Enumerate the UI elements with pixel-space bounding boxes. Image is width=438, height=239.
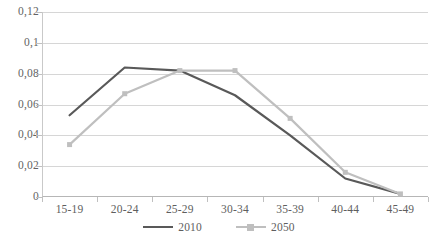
data-point-marker xyxy=(67,142,72,147)
data-point-marker xyxy=(288,116,293,121)
series-layer xyxy=(0,0,438,239)
series-line-2050 xyxy=(70,71,401,194)
data-point-marker xyxy=(233,68,238,73)
legend-swatch-icon xyxy=(236,223,266,232)
legend-label: 2050 xyxy=(271,221,295,233)
legend-item-2050[interactable]: 2050 xyxy=(236,221,295,233)
legend-swatch-icon xyxy=(143,223,173,232)
data-point-marker xyxy=(398,191,403,196)
legend-item-2010[interactable]: 2010 xyxy=(143,221,202,233)
data-point-marker xyxy=(177,68,182,73)
chart-legend: 20102050 xyxy=(0,221,438,233)
legend-label: 2010 xyxy=(178,221,202,233)
data-point-marker xyxy=(122,91,127,96)
data-point-marker xyxy=(343,170,348,175)
line-chart: 00,020,040,060,080,10,12 15-1920-2425-29… xyxy=(0,0,438,239)
